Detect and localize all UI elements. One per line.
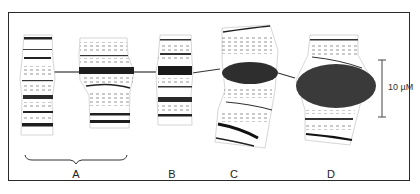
panel-label-b: B bbox=[168, 168, 175, 180]
chromosome-diagram bbox=[0, 0, 420, 194]
scale-bar bbox=[378, 60, 386, 117]
panel-label-d: D bbox=[327, 168, 335, 180]
panel-label-c: C bbox=[230, 168, 238, 180]
chromosome-d bbox=[296, 35, 376, 145]
chromosome-c bbox=[215, 25, 278, 148]
chromosome-a1 bbox=[20, 35, 55, 135]
chromosome-b bbox=[156, 35, 193, 125]
bracket-a bbox=[25, 155, 127, 164]
panel-label-a: A bbox=[72, 168, 79, 180]
scale-bar-label: 10 µM bbox=[388, 82, 413, 92]
chromosome-a2 bbox=[79, 38, 134, 128]
